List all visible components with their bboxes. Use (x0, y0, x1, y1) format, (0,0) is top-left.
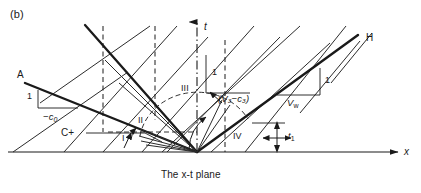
c-plus-label: C+ (61, 128, 74, 138)
slope-minus-c0-text: −c (43, 111, 54, 122)
t-axis-label: t (204, 22, 207, 32)
region-label-3: III (181, 84, 189, 93)
t1-subscript: 1 (291, 135, 295, 142)
left-characteristics-long (162, 26, 372, 152)
characteristic-A-label: A (17, 70, 24, 80)
slope-one-left-label: 1 (27, 92, 32, 101)
slope-minus-c0-label: −c0 (43, 112, 58, 123)
characteristic-H-label: H (366, 33, 373, 43)
region-label-4: IV (233, 132, 242, 141)
x-axis-label: x (404, 147, 409, 157)
figure-caption: The x-t plane (161, 170, 221, 180)
slope-minus-c0-subscript: 0 (54, 116, 58, 123)
t1-dimension (252, 121, 291, 153)
slope-one-right-label: 1 (325, 76, 330, 85)
figure-canvas (0, 0, 421, 193)
x-t-plane-figure: (b) t x A H 1 −c0 1 (V₃−c₃) 1 Vw t1 C+ I… (0, 0, 421, 193)
t1-label: t1 (288, 131, 295, 142)
slope-vw-label: Vw (287, 98, 299, 109)
region-label-2: II (138, 116, 143, 125)
slope-one-middle-label: 1 (212, 68, 217, 77)
region-label-1: I (122, 134, 125, 143)
slope-v3-minus-c3-label: (V₃−c₃) (218, 94, 249, 104)
slope-vw-subscript: w (293, 102, 298, 109)
panel-label: (b) (10, 9, 24, 20)
slope-triangle-left (38, 90, 78, 108)
